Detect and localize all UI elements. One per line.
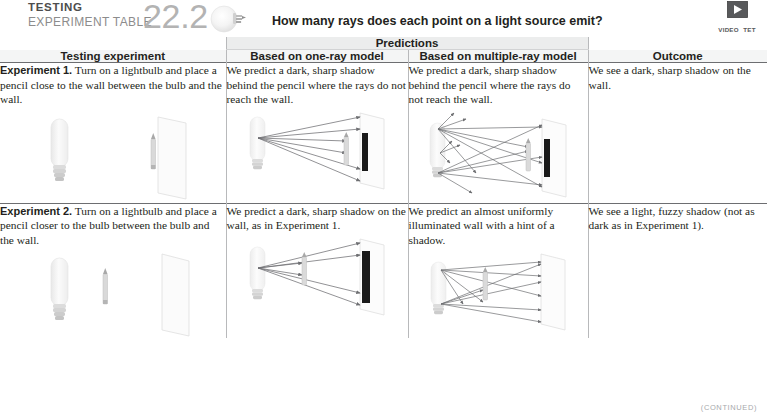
row2-multi-ray-diagram bbox=[417, 252, 579, 338]
row1-testing-experiment-cell: Experiment 1. Turn on a lightbulb and pl… bbox=[0, 63, 226, 204]
row1-one-ray-text: We predict a dark, sharp shadow behind t… bbox=[227, 64, 406, 105]
column-group-predictions: Predictions bbox=[226, 37, 588, 50]
row1-one-ray-shadow bbox=[362, 133, 368, 171]
column-header-one-ray-model: Based on one-ray model bbox=[226, 50, 408, 63]
header-kicker: TESTING EXPERIMENT TABLE bbox=[28, 2, 152, 28]
header-kicker-line1: TESTING bbox=[28, 2, 152, 14]
column-header-outcome: Outcome bbox=[588, 50, 767, 63]
experiment-table: Predictions Testing experiment Based on … bbox=[0, 37, 767, 338]
row2-one-ray-diagram bbox=[236, 237, 398, 323]
row1-multi-ray-text: We predict a dark, sharp shadow behind t… bbox=[409, 64, 571, 105]
row2-setup-diagram bbox=[15, 252, 211, 338]
row2-multi-ray-text: We predict an almost uniformly illuminat… bbox=[409, 205, 555, 246]
header-kicker-line2: EXPERIMENT TABLE bbox=[28, 16, 152, 28]
row2-one-ray-text: We predict a dark, sharp shadow on the w… bbox=[227, 205, 406, 232]
column-header-testing-experiment: Testing experiment bbox=[0, 50, 226, 63]
row2-one-ray-shadow bbox=[362, 251, 370, 303]
video-label-line1: VIDEO bbox=[718, 26, 739, 33]
continued-label: (CONTINUED) bbox=[701, 403, 757, 412]
row1-one-ray-cell: We predict a dark, sharp shadow behind t… bbox=[226, 63, 408, 204]
row2-one-ray-cell: We predict a dark, sharp shadow on the w… bbox=[226, 203, 408, 337]
row1-outcome-cell: We see a dark, sharp shadow on the wall. bbox=[588, 63, 767, 204]
row1-experiment-label: Experiment 1. bbox=[0, 64, 72, 76]
table-header-row: Testing experiment Based on one-ray mode… bbox=[0, 50, 767, 63]
row1-multi-ray-shadow bbox=[544, 139, 550, 177]
row2-multi-ray-cell: We predict an almost uniformly illuminat… bbox=[408, 203, 588, 337]
table-row: Experiment 1. Turn on a lightbulb and pl… bbox=[0, 63, 767, 204]
row1-multi-ray-diagram bbox=[416, 111, 581, 203]
row2-experiment-label: Experiment 2. bbox=[0, 205, 72, 217]
group-header-spacer-right bbox=[588, 37, 767, 50]
group-header-spacer bbox=[0, 37, 226, 50]
row1-one-ray-diagram bbox=[236, 111, 398, 197]
row2-outcome-cell: We see a light, fuzzy shadow (not as dar… bbox=[588, 203, 767, 337]
row1-multi-ray-cell: We predict a dark, sharp shadow behind t… bbox=[408, 63, 588, 204]
row2-testing-experiment-cell: Experiment 2. Turn on a lightbulb and pl… bbox=[0, 203, 226, 337]
table-row: Experiment 2. Turn on a lightbulb and pl… bbox=[0, 203, 767, 337]
table-number: 22.2 bbox=[143, 0, 208, 36]
row1-setup-diagram bbox=[15, 111, 211, 203]
table-group-header-row: Predictions bbox=[0, 37, 767, 50]
page-title: How many rays does each point on a light… bbox=[272, 14, 603, 28]
play-icon[interactable] bbox=[727, 1, 748, 18]
page-header: TESTING EXPERIMENT TABLE 22.2 How many r… bbox=[0, 0, 767, 38]
column-header-multiple-ray-model: Based on multiple-ray model bbox=[408, 50, 588, 63]
lightbulb-icon bbox=[205, 4, 253, 34]
